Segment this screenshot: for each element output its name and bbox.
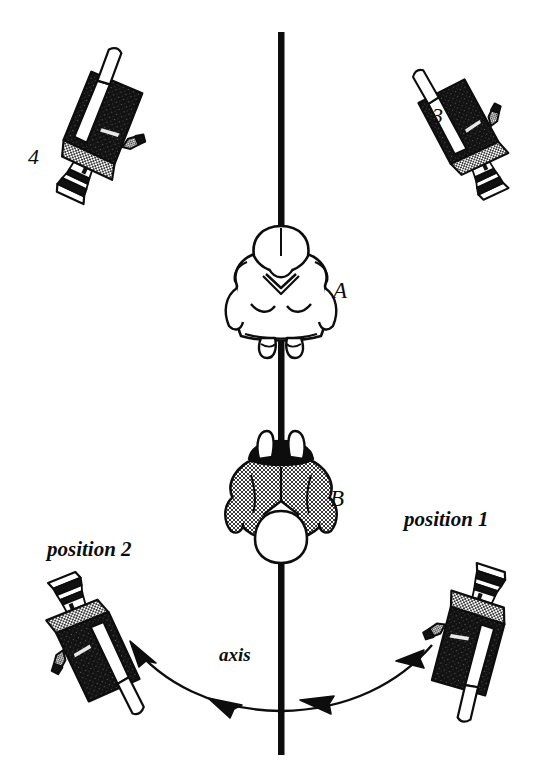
camera-position-1 bbox=[401, 554, 523, 726]
axis-label: axis bbox=[219, 645, 251, 664]
camera-position-2-label: position 2 bbox=[47, 539, 132, 560]
camera-4-label: 4 bbox=[28, 146, 39, 168]
subject-a-label: A bbox=[333, 279, 347, 302]
camera-3 bbox=[406, 45, 534, 207]
diagram-canvas: A B 4 3 position 1 position 2 axis bbox=[0, 0, 546, 784]
camera-position-1-label: position 1 bbox=[404, 509, 489, 530]
subject-b-figure bbox=[225, 431, 337, 563]
subject-a-figure bbox=[226, 226, 337, 358]
subject-b-label: B bbox=[330, 487, 344, 510]
camera-4 bbox=[39, 43, 175, 217]
axis-line bbox=[278, 32, 285, 755]
camera-position-2 bbox=[21, 565, 152, 738]
camera-3-label: 3 bbox=[432, 105, 443, 127]
diagram-artwork bbox=[0, 0, 546, 784]
